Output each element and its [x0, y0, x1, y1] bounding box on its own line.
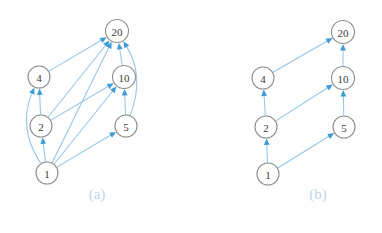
edge-n4-to-n20 — [49, 39, 103, 71]
figure-canvas: 20410251(a)20410251(b) — [0, 0, 382, 233]
arrowhead-n1-to-n5 — [327, 133, 334, 139]
edge-n1-to-n2 — [43, 142, 45, 162]
arrowhead-n10-to-n20 — [340, 44, 346, 50]
edge-n2-to-n4 — [264, 94, 265, 115]
node-label-20: 20 — [112, 26, 124, 38]
edge-n2-to-n4 — [40, 93, 41, 114]
arrowhead-n5-to-n20 — [123, 41, 129, 48]
node-label-1: 1 — [265, 169, 271, 181]
arrowhead-n2-to-n4 — [37, 89, 43, 96]
node-label-10: 10 — [338, 73, 350, 85]
node-label-20: 20 — [338, 27, 350, 39]
edge-n2-to-n20 — [48, 44, 106, 117]
node-label-10: 10 — [119, 72, 131, 84]
divisibility-hasse-diagram-figure: 20410251(a)20410251(b) — [0, 0, 382, 233]
arrowhead-n5-to-n10 — [340, 90, 346, 96]
node-label-5: 5 — [123, 121, 129, 133]
node-20: 20 — [332, 21, 355, 44]
node-label-1: 1 — [44, 168, 50, 180]
node-label-4: 4 — [260, 73, 266, 85]
edge-n2-to-n10 — [276, 87, 329, 121]
arrowhead-n5-to-n10 — [122, 89, 128, 96]
edge-n1-to-n2 — [267, 143, 268, 162]
arrowhead-n1-to-n5 — [109, 132, 116, 138]
edge-n4-to-n20 — [273, 40, 329, 72]
node-1: 1 — [257, 163, 279, 185]
panel-caption-a: (a) — [89, 186, 106, 203]
arrowhead-n2-to-n10 — [107, 83, 114, 89]
edge-n10-to-n20 — [120, 48, 123, 66]
node-2: 2 — [30, 115, 52, 137]
panel-a: 20410251(a) — [26, 20, 137, 204]
edge-layer — [26, 37, 136, 167]
node-20: 20 — [106, 20, 129, 43]
panel-b: 20410251(b) — [252, 21, 355, 204]
node-label-4: 4 — [36, 72, 42, 84]
node-5: 5 — [333, 116, 355, 138]
node-2: 2 — [255, 116, 277, 138]
node-4: 4 — [252, 67, 274, 89]
edge-n1-to-n5 — [278, 136, 330, 168]
node-1: 1 — [36, 162, 58, 184]
node-label-2: 2 — [263, 122, 269, 134]
arrowhead-n2-to-n10 — [326, 84, 333, 90]
node-5: 5 — [115, 115, 137, 137]
edge-layer — [261, 38, 346, 168]
arrowhead-n1-to-n2 — [40, 138, 46, 145]
node-label-2: 2 — [38, 121, 44, 133]
arrowhead-n10-to-n20 — [117, 43, 123, 50]
node-label-5: 5 — [341, 122, 347, 134]
node-10: 10 — [332, 67, 355, 90]
node-4: 4 — [28, 66, 50, 88]
edge-n5-to-n10 — [125, 94, 126, 115]
node-10: 10 — [113, 66, 136, 89]
arrowhead-n1-to-n10 — [110, 86, 116, 93]
edge-n1-to-n20 — [52, 46, 110, 163]
arrowhead-n2-to-n4 — [261, 90, 267, 97]
arrowhead-n1-to-n2 — [264, 139, 270, 146]
panel-caption-b: (b) — [309, 186, 327, 203]
arrowhead-n4-to-n20 — [100, 37, 107, 43]
